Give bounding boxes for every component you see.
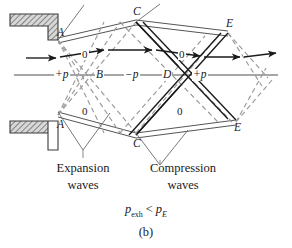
- nozzle-wall-upper: [10, 14, 58, 40]
- nozzle-wall-lower: [10, 121, 58, 150]
- pressure-label-positive-right: +p: [192, 69, 208, 81]
- zero-label-lower-left: 0: [81, 106, 89, 117]
- pressure-condition-formula: pexh<pE: [0, 203, 292, 219]
- expansion-waves-label-line1: Expansion: [33, 162, 133, 175]
- formula-p-e-subscript: E: [162, 210, 167, 219]
- compression-waves-label-line2: waves: [128, 179, 238, 192]
- formula-relation: <: [143, 202, 156, 216]
- jet-boundary-upper: [58, 20, 228, 43]
- point-label-c-lower: C: [133, 138, 141, 150]
- formula-p-exh-subscript: exh: [131, 210, 143, 219]
- point-label-a-upper: A: [57, 27, 64, 39]
- point-label-a-lower: A: [57, 119, 64, 131]
- figure-part-label: (b): [0, 226, 292, 239]
- zero-label-upper-left: 0: [81, 49, 89, 60]
- point-label-e-lower: E: [234, 122, 241, 134]
- point-label-e-upper: E: [226, 18, 233, 30]
- point-label-d: D: [162, 69, 172, 81]
- point-label-c-upper: C: [133, 6, 141, 18]
- pressure-label-positive-left: +p: [54, 69, 70, 81]
- zero-label-lower-right: 0: [176, 106, 184, 117]
- expansion-waves-label-line2: waves: [33, 179, 133, 192]
- zero-label-upper-right: 0: [178, 49, 186, 60]
- pressure-label-negative: −p: [124, 69, 140, 81]
- compression-waves-label-line1: Compression: [128, 162, 238, 175]
- point-label-b: B: [95, 69, 104, 81]
